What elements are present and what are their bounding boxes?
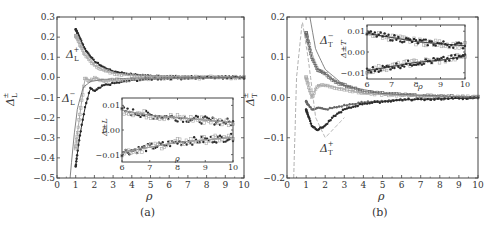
data-point <box>446 57 448 59</box>
data-point <box>456 57 458 59</box>
data-point <box>384 100 386 102</box>
x-tick-label: 10 <box>472 180 484 190</box>
data-point <box>346 107 348 109</box>
x-tick-label: 4 <box>361 180 367 190</box>
data-point <box>343 104 345 106</box>
data-point <box>351 103 353 105</box>
x-tick-label: 8 <box>204 180 210 190</box>
series-line <box>294 23 345 178</box>
data-point <box>395 99 397 101</box>
data-point <box>374 31 376 33</box>
svg-text:ΔT±: ΔT± <box>242 92 259 107</box>
y-tick-label: 0.1 <box>271 52 285 62</box>
x-tick-label: 7 <box>418 180 424 190</box>
x-tick-label: 3 <box>110 180 116 190</box>
y-tick-label: 0.01 <box>102 101 120 110</box>
data-point <box>451 97 453 99</box>
data-point <box>213 123 215 125</box>
data-point <box>378 34 380 36</box>
data-point <box>79 134 81 136</box>
data-point <box>433 98 435 100</box>
data-point <box>335 106 337 108</box>
data-point <box>200 122 202 124</box>
data-point <box>308 118 310 120</box>
data-point <box>162 141 164 143</box>
data-point <box>454 43 456 45</box>
data-point <box>452 47 454 49</box>
data-point <box>191 143 193 145</box>
data-point <box>83 113 85 115</box>
data-point <box>75 160 77 162</box>
annotation-delta-t-plus: ΔT+ <box>319 140 334 157</box>
x-tick-label: 9 <box>456 180 462 190</box>
data-point <box>97 62 99 64</box>
data-point <box>370 30 372 32</box>
data-point <box>329 119 331 121</box>
x-tick-label: 4 <box>129 180 135 190</box>
data-point <box>364 102 366 104</box>
y-tick-label: −0.2 <box>33 113 55 123</box>
data-point <box>426 98 428 100</box>
data-point <box>370 71 372 73</box>
x-tick-label: 0 <box>54 180 60 190</box>
data-point <box>462 98 464 100</box>
data-point <box>309 120 311 122</box>
data-point <box>81 123 83 125</box>
y-tick-label: −0.5 <box>33 173 55 183</box>
data-point <box>407 60 409 62</box>
x-tick-label: 9 <box>203 163 208 172</box>
data-point <box>458 97 460 99</box>
data-point <box>380 31 382 33</box>
data-point <box>440 42 442 44</box>
data-point <box>376 100 378 102</box>
data-point <box>404 98 406 100</box>
y-tick-label: 0.1 <box>41 52 55 62</box>
data-point <box>401 99 403 101</box>
data-point <box>397 36 399 38</box>
panel-b-caption: (b) <box>372 206 388 219</box>
x-tick-label: 10 <box>238 180 250 190</box>
data-point <box>139 116 141 118</box>
data-point <box>462 47 464 49</box>
data-point <box>329 107 331 109</box>
data-point <box>371 101 373 103</box>
annotation-delta-t-minus: ΔT− <box>319 32 334 49</box>
data-point <box>360 101 362 103</box>
data-point <box>454 54 456 56</box>
data-point <box>420 98 422 100</box>
data-point <box>109 84 111 86</box>
data-point <box>395 62 397 64</box>
data-point <box>389 68 391 70</box>
x-tick-label: 8 <box>437 180 443 190</box>
data-point <box>230 133 232 135</box>
panel-b-ylabel: ΔT± <box>242 92 259 107</box>
data-point <box>310 122 312 124</box>
data-point <box>368 69 370 71</box>
x-tick-label: 1 <box>73 180 79 190</box>
data-point <box>399 67 401 69</box>
data-point <box>430 40 432 42</box>
data-point <box>372 33 374 35</box>
panel-a-xlabel: ρ <box>145 190 153 203</box>
data-point <box>84 106 86 108</box>
data-point <box>434 44 436 46</box>
y-tick-label: 0.00 <box>347 48 365 57</box>
data-point <box>118 81 120 83</box>
annotation-delta-l-plus: ΔL+ <box>65 46 80 63</box>
data-point <box>125 80 127 82</box>
data-point <box>437 97 439 99</box>
data-point <box>182 121 184 123</box>
x-tick-label: 7 <box>185 180 191 190</box>
data-point <box>176 120 178 122</box>
data-point <box>387 34 389 36</box>
data-point <box>403 40 405 42</box>
y-tick-label: 0.2 <box>41 32 55 42</box>
y-tick-label: −0.01 <box>95 151 120 160</box>
x-tick-label: 10 <box>228 163 238 172</box>
data-point <box>429 60 431 62</box>
data-point <box>430 99 432 101</box>
y-tick-label: −0.2 <box>263 173 285 183</box>
data-point <box>82 118 84 120</box>
data-point <box>374 70 376 72</box>
figure: 0123456789100.30.20.10.0−0.1−0.2−0.3−0.4… <box>0 0 488 229</box>
